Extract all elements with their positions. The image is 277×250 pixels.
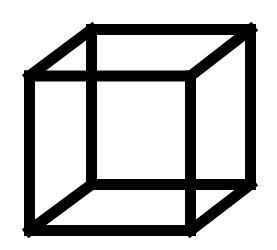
- necker-cube-diagram: [0, 0, 277, 250]
